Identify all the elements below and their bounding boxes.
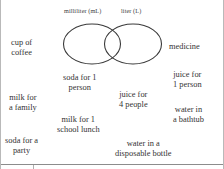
item-line: soda for 1 bbox=[63, 73, 97, 83]
venn-diagram-worksheet: milliliter (mL) liter (L) cup of coffee … bbox=[0, 0, 224, 169]
item-line: person bbox=[63, 83, 97, 93]
item-line: soda for a bbox=[5, 136, 38, 146]
item-medicine[interactable]: medicine bbox=[169, 42, 200, 52]
item-water-in-a-bathtub[interactable]: water in a bathtub bbox=[173, 105, 204, 125]
venn-circle-milliliter[interactable] bbox=[64, 24, 121, 64]
item-line: milk for 1 bbox=[57, 115, 100, 125]
venn-circle-liter[interactable] bbox=[105, 24, 162, 64]
item-line: a family bbox=[9, 103, 37, 113]
item-line: disposable bottle bbox=[115, 149, 172, 159]
item-line: party bbox=[5, 146, 38, 156]
item-milk-for-a-family[interactable]: milk for a family bbox=[9, 93, 37, 113]
page-bottom-divider bbox=[1, 164, 223, 165]
item-cup-of-coffee[interactable]: cup of coffee bbox=[11, 38, 32, 58]
venn-label-liter: liter (L) bbox=[121, 7, 141, 14]
item-juice-for-1-person[interactable]: juice for 1 person bbox=[173, 70, 202, 90]
item-line: juice for bbox=[173, 70, 202, 80]
item-line: 1 person bbox=[173, 80, 202, 90]
item-line: cup of bbox=[11, 38, 32, 48]
item-line: 4 people bbox=[119, 100, 148, 110]
item-water-in-a-disposable-bottle[interactable]: water in a disposable bottle bbox=[115, 139, 172, 159]
item-line: juice for bbox=[119, 90, 148, 100]
item-line: medicine bbox=[169, 42, 200, 52]
item-line: coffee bbox=[11, 48, 32, 58]
item-soda-for-a-party[interactable]: soda for a party bbox=[5, 136, 38, 156]
item-juice-for-4-people[interactable]: juice for 4 people bbox=[119, 90, 148, 110]
item-line: water in a bbox=[115, 139, 172, 149]
page-bottom-tick bbox=[33, 165, 34, 169]
item-line: milk for bbox=[9, 93, 37, 103]
venn-label-milliliter: milliliter (mL) bbox=[64, 7, 101, 14]
item-line: water in bbox=[173, 105, 204, 115]
item-soda-for-1-person[interactable]: soda for 1 person bbox=[63, 73, 97, 93]
item-line: school lunch bbox=[57, 125, 100, 135]
item-line: a bathtub bbox=[173, 115, 204, 125]
item-milk-for-1-school-lunch[interactable]: milk for 1 school lunch bbox=[57, 115, 100, 135]
